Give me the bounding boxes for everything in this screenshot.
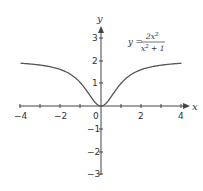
function-plot: x y −4 −2 0 2 4 3 2 1 −1 −2 −3 y = 2x2 x… bbox=[0, 0, 203, 191]
y-axis-arrow-icon bbox=[98, 26, 104, 33]
y-tick-label: 3 bbox=[92, 33, 98, 43]
y-tick-label: −1 bbox=[87, 124, 100, 134]
equation-label: y = 2x2 x2 + 1 bbox=[127, 31, 165, 53]
x-tick-label: 0 bbox=[93, 111, 99, 121]
y-tick-label: 2 bbox=[92, 56, 98, 66]
x-tick-label: −4 bbox=[14, 111, 28, 121]
x-axis-arrow-icon bbox=[183, 103, 190, 109]
svg-text:2x2: 2x2 bbox=[145, 31, 159, 41]
y-axis-label: y bbox=[96, 13, 103, 24]
y-tick-label: −3 bbox=[87, 169, 100, 179]
x-tick-label: 4 bbox=[178, 111, 184, 121]
x-tick-label: 2 bbox=[138, 111, 144, 121]
y-tick-label: 1 bbox=[92, 78, 98, 88]
svg-text:x2 + 1: x2 + 1 bbox=[141, 43, 165, 53]
x-axis-label: x bbox=[192, 101, 198, 112]
y-tick-label: −2 bbox=[87, 147, 100, 157]
x-tick-label: −2 bbox=[54, 111, 67, 121]
